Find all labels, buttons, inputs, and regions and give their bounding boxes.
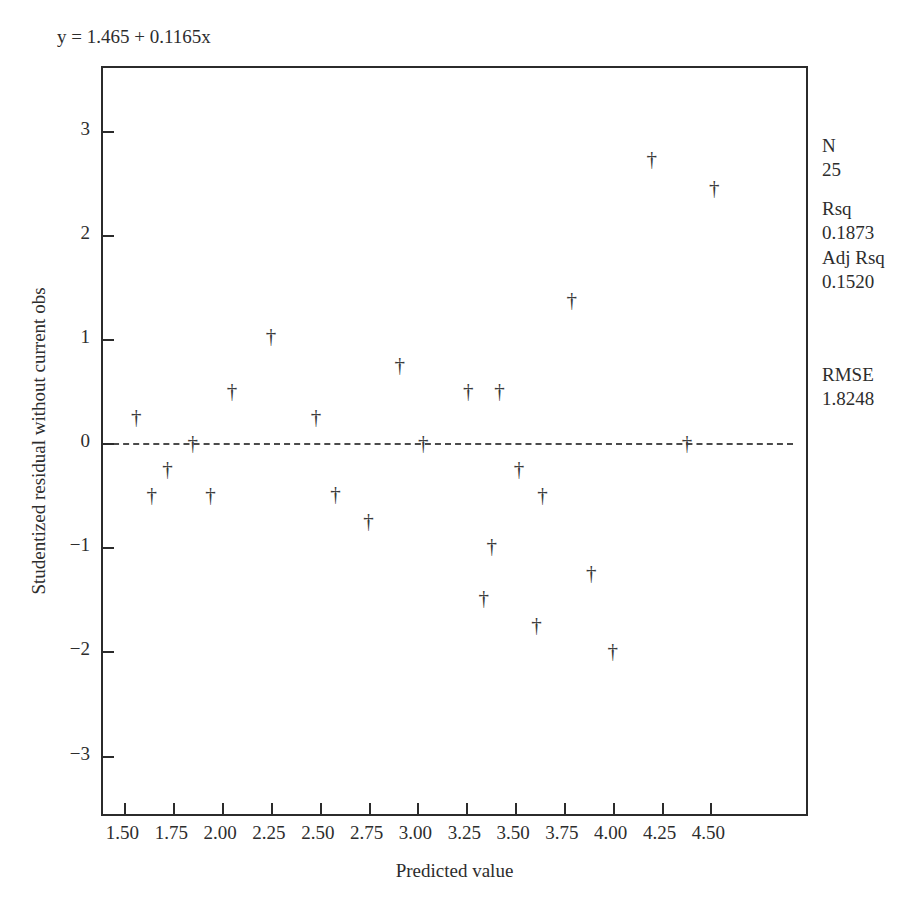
- data-point-marker: †: [586, 563, 597, 584]
- data-point-marker: †: [330, 484, 341, 505]
- statistics-panel: N 25 Rsq 0.1873 Adj Rsq 0.1520 RMSE 1.82…: [822, 66, 921, 816]
- x-axis-tick-label: 2.25: [252, 822, 285, 844]
- data-point-marker: †: [607, 641, 618, 662]
- x-axis-tick-label: 1.75: [155, 822, 188, 844]
- y-axis-tick-label: 0: [56, 430, 90, 452]
- y-axis-tick-label: −2: [56, 638, 90, 660]
- x-axis-tick: [613, 803, 615, 814]
- y-axis-tick-label: 2: [56, 222, 90, 244]
- data-point-marker: †: [479, 588, 490, 609]
- x-axis-tick-label: 3.25: [448, 822, 481, 844]
- y-axis-tick: [103, 339, 114, 341]
- data-point-marker: †: [311, 406, 322, 427]
- data-point-marker: †: [266, 325, 277, 346]
- y-axis-tick-label: −3: [56, 743, 90, 765]
- x-axis-tick: [222, 803, 224, 814]
- x-axis-tick: [466, 803, 468, 814]
- x-axis-tick-label: 1.50: [106, 822, 139, 844]
- chart-page: y = 1.465 + 0.1165x ††††††††††††††††††††…: [0, 0, 921, 911]
- data-point-marker: †: [682, 433, 693, 454]
- x-axis-tick: [417, 803, 419, 814]
- data-point-marker: †: [463, 380, 474, 401]
- y-axis-tick-label: −1: [56, 534, 90, 556]
- plot-area: †††††††††††††††††††††††††: [103, 68, 806, 814]
- x-axis-tick-label: 2.50: [301, 822, 334, 844]
- stat-adj-rsq: Adj Rsq 0.1520: [822, 246, 885, 295]
- data-point-marker: †: [395, 354, 406, 375]
- stat-rsq-value: 0.1873: [822, 221, 874, 245]
- x-axis-tick: [662, 803, 664, 814]
- stat-n-label: N: [822, 134, 841, 158]
- stat-adj-rsq-label: Adj Rsq: [822, 246, 885, 270]
- x-axis-tick-label: 3.50: [496, 822, 529, 844]
- stat-adj-rsq-value: 0.1520: [822, 270, 885, 294]
- data-point-marker: †: [709, 177, 720, 198]
- y-axis-tick: [103, 443, 114, 445]
- x-axis-tick: [271, 803, 273, 814]
- x-axis-tick-label: 2.00: [204, 822, 237, 844]
- x-axis-title: Predicted value: [101, 860, 808, 882]
- x-axis-tick-label: 4.00: [594, 822, 627, 844]
- x-axis-tick: [173, 803, 175, 814]
- y-axis-tick: [103, 547, 114, 549]
- x-axis-tick: [710, 803, 712, 814]
- data-point-marker: †: [162, 459, 173, 480]
- stat-rsq-label: Rsq: [822, 197, 874, 221]
- x-axis-tick: [320, 803, 322, 814]
- stat-n-value: 25: [822, 158, 841, 182]
- data-point-marker: †: [514, 459, 525, 480]
- data-point-marker: †: [147, 485, 158, 506]
- x-axis-tick-label: 2.75: [350, 822, 383, 844]
- x-axis-tick: [564, 803, 566, 814]
- data-point-marker: †: [227, 380, 238, 401]
- data-point-marker: †: [363, 511, 374, 532]
- data-point-marker: †: [131, 406, 142, 427]
- plot-frame: †††††††††††††††††††††††††: [101, 66, 808, 816]
- y-axis-tick-label: 1: [56, 326, 90, 348]
- y-axis-tick: [103, 756, 114, 758]
- x-axis-tick: [124, 803, 126, 814]
- regression-equation-annotation: y = 1.465 + 0.1165x: [57, 26, 211, 48]
- data-point-marker: †: [647, 148, 658, 169]
- x-axis-tick-label: 4.50: [692, 822, 725, 844]
- y-axis-tick-label: 3: [56, 118, 90, 140]
- stat-n: N 25: [822, 134, 841, 183]
- y-axis-tick: [103, 131, 114, 133]
- y-axis-tick: [103, 235, 114, 237]
- data-point-marker: †: [566, 290, 577, 311]
- stat-rmse-value: 1.8248: [822, 387, 874, 411]
- data-point-marker: †: [531, 615, 542, 636]
- data-point-marker: †: [486, 536, 497, 557]
- stat-rmse-label: RMSE: [822, 363, 874, 387]
- x-axis-tick: [369, 803, 371, 814]
- x-axis-tick: [515, 803, 517, 814]
- x-axis-tick-label: 4.25: [643, 822, 676, 844]
- y-axis-tick: [103, 651, 114, 653]
- data-point-marker: †: [537, 485, 548, 506]
- x-axis-tick-label: 3.75: [545, 822, 578, 844]
- stat-rmse: RMSE 1.8248: [822, 363, 874, 412]
- data-point-marker: †: [418, 433, 429, 454]
- y-axis-title: Studentized residual without current obs: [28, 66, 56, 816]
- x-axis-tick-label: 3.00: [399, 822, 432, 844]
- data-point-marker: †: [188, 433, 199, 454]
- stat-rsq: Rsq 0.1873: [822, 197, 874, 246]
- data-point-marker: †: [205, 485, 216, 506]
- data-point-marker: †: [494, 380, 505, 401]
